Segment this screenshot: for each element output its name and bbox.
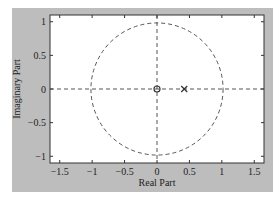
x-tick-label: 1 [219,166,224,177]
x-tick-label: −1 [87,166,98,177]
pole-zero-plot: −1.5−1−0.500.511.5 −1−0.500.51 Real Part… [0,0,278,204]
y-tick-label: 0 [41,84,46,95]
x-axis-label: Real Part [139,177,176,188]
y-tick-label: −0.5 [28,117,46,128]
y-axis-label: Imaginary Part [11,59,22,119]
y-tick-label: 1 [41,16,46,27]
x-tick-label: 0 [155,166,160,177]
x-tick-label: 1.5 [248,166,261,177]
y-tick-label: −1 [35,151,46,162]
x-tick-label: −1.5 [51,166,69,177]
x-tick-label: −0.5 [116,166,134,177]
x-tick-label: 0.5 [183,166,196,177]
y-tick-label: 0.5 [34,50,47,61]
